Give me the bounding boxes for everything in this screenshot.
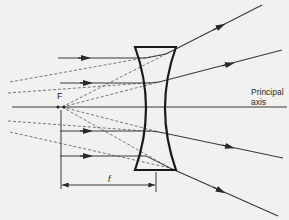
refracted-inside-lens (146, 54, 170, 168)
principal-axis-label-line2: axis (251, 97, 266, 107)
principal-axis-label: Principal (251, 87, 284, 97)
emergent-ray-arrows (213, 26, 230, 191)
lens-diagram: F Principal axis f (0, 0, 289, 220)
focal-point-marker (56, 105, 59, 108)
concave-lens (135, 47, 176, 170)
emergent-rays (159, 5, 283, 216)
focal-length-label: f (108, 174, 111, 184)
diagram-canvas (0, 0, 289, 220)
focal-point-marker-2 (62, 105, 65, 108)
focal-point-label: F (57, 91, 63, 101)
